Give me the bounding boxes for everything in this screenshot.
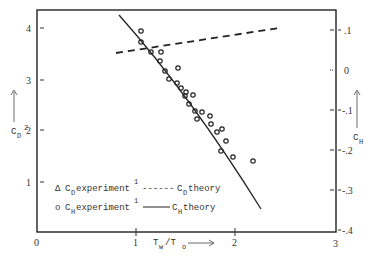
svg-text:2: 2 bbox=[24, 124, 28, 132]
svg-text:experiment: experiment bbox=[76, 184, 130, 194]
svg-text:o: o bbox=[55, 203, 60, 213]
svg-text:experiment: experiment bbox=[76, 203, 130, 213]
svg-text:3: 3 bbox=[26, 75, 31, 86]
svg-text:/T: /T bbox=[165, 238, 176, 248]
legend: Δ C D experiment 1 ------ C D theory o C… bbox=[55, 178, 221, 216]
svg-text:H: H bbox=[71, 208, 75, 216]
chart: 4 3 2 1 C D 2 .1 0 -.1 -.2 -.3 -.4 C H bbox=[0, 0, 373, 257]
svg-text:-.3: -.3 bbox=[342, 185, 353, 196]
svg-text:H: H bbox=[178, 208, 182, 216]
svg-text:-.2: -.2 bbox=[342, 145, 353, 156]
right-axis-title: C H bbox=[353, 90, 363, 146]
svg-text:1: 1 bbox=[134, 178, 138, 186]
left-axis-ticks bbox=[40, 28, 44, 182]
svg-text:1: 1 bbox=[26, 177, 31, 188]
svg-text:o: o bbox=[182, 243, 186, 251]
svg-text:Δ: Δ bbox=[55, 184, 61, 194]
legend-row-ch: o C H experiment 1 C H theory bbox=[55, 197, 216, 216]
svg-text:H: H bbox=[359, 138, 363, 146]
svg-text:1: 1 bbox=[133, 237, 138, 248]
svg-text:0: 0 bbox=[34, 237, 39, 248]
svg-text:4: 4 bbox=[26, 23, 31, 34]
svg-text:theory: theory bbox=[183, 203, 216, 213]
svg-text:-.1: -.1 bbox=[342, 105, 353, 116]
right-axis-labels: .1 0 -.1 -.2 -.3 -.4 bbox=[342, 25, 353, 236]
svg-text:.1: .1 bbox=[344, 25, 352, 36]
svg-text:0: 0 bbox=[344, 65, 349, 76]
svg-text:------: ------ bbox=[142, 184, 174, 194]
plot-frame bbox=[37, 10, 336, 232]
x-axis-title: T w /T o bbox=[153, 238, 214, 251]
legend-row-cd: Δ C D experiment 1 ------ C D theory bbox=[55, 178, 221, 197]
svg-text:3: 3 bbox=[333, 238, 338, 249]
ch-experiment-points bbox=[139, 29, 255, 163]
svg-text:D: D bbox=[183, 189, 187, 197]
svg-text:2: 2 bbox=[232, 237, 237, 248]
svg-text:w: w bbox=[159, 243, 164, 251]
svg-text:D: D bbox=[71, 189, 75, 197]
svg-text:1: 1 bbox=[134, 197, 138, 205]
svg-text:D: D bbox=[17, 132, 21, 140]
svg-text:theory: theory bbox=[188, 184, 221, 194]
svg-text:-.4: -.4 bbox=[342, 225, 353, 236]
left-axis-labels: 4 3 2 1 bbox=[26, 23, 31, 188]
